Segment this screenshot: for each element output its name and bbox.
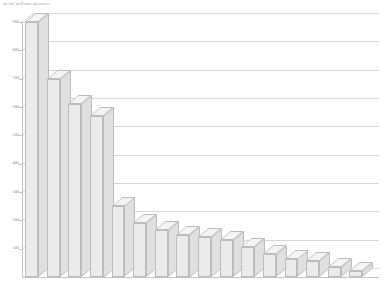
- y-axis-tick-label: 700: [1, 76, 19, 80]
- bar: [241, 247, 254, 277]
- bar-front-face: [241, 247, 254, 277]
- bar-chart: en mil millones de euros 900800700600500…: [0, 0, 383, 293]
- bar: [198, 237, 211, 277]
- y-axis-line: [22, 22, 23, 277]
- bar-front-face: [285, 259, 298, 277]
- bar: [25, 22, 38, 277]
- bar: [68, 104, 81, 277]
- bar: [90, 116, 103, 278]
- bar-front-face: [155, 230, 168, 277]
- x-axis-line: [22, 277, 379, 278]
- bar: [176, 235, 189, 278]
- gridline: [33, 70, 379, 71]
- bar: [47, 79, 60, 277]
- y-axis-tick-label: 300: [1, 190, 19, 194]
- y-axis-tick-label: 100: [1, 246, 19, 250]
- y-axis-tick-label: 200: [1, 218, 19, 222]
- bar-front-face: [68, 104, 81, 277]
- bar-front-face: [220, 240, 233, 277]
- bar: [112, 206, 125, 277]
- bar-front-face: [328, 267, 341, 277]
- bar-front-face: [349, 271, 362, 277]
- bar-front-face: [90, 116, 103, 278]
- y-axis-tick-label: 400: [1, 161, 19, 165]
- bar-front-face: [133, 223, 146, 277]
- bar: [349, 271, 362, 277]
- bar-front-face: [112, 206, 125, 277]
- bar-front-face: [306, 261, 319, 277]
- gridline: [33, 13, 379, 14]
- bar: [306, 261, 319, 277]
- bar-front-face: [263, 254, 276, 277]
- bar: [155, 230, 168, 277]
- plot-area: 900800700600500400300200100: [0, 0, 383, 293]
- bar-front-face: [198, 237, 211, 277]
- bar-front-face: [176, 235, 189, 278]
- bar: [328, 267, 341, 277]
- y-axis-tick-label: 600: [1, 105, 19, 109]
- bar: [220, 240, 233, 277]
- bar: [133, 223, 146, 277]
- y-axis-tick-label: 900: [1, 20, 19, 24]
- bar: [285, 259, 298, 277]
- bar-front-face: [25, 22, 38, 277]
- y-axis-tick-label: 800: [1, 48, 19, 52]
- gridline: [33, 41, 379, 42]
- y-axis-tick-label: 500: [1, 133, 19, 137]
- bar: [263, 254, 276, 277]
- bar-front-face: [47, 79, 60, 277]
